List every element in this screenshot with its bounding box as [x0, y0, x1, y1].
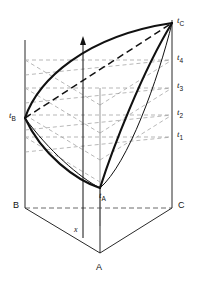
- isotherm-construction-lines: [25, 60, 172, 182]
- diagram-canvas: [0, 0, 197, 282]
- isotherm-back-guide-3r: [100, 115, 172, 160]
- label-vertex-a: A: [96, 263, 102, 272]
- liquidus-curve-tb-ta: [25, 118, 100, 188]
- triangle-edge-a-c: [100, 208, 172, 253]
- secondary-curve-ta-tc: [100, 23, 172, 188]
- label-vertex-c: C: [178, 201, 185, 210]
- label-temperature-c: tC: [177, 16, 184, 27]
- label-isotherm-t4: t4: [177, 53, 183, 64]
- label-axis-x: x: [74, 226, 78, 234]
- liquidus-secondary-curves: [25, 23, 172, 188]
- prism-vertical-edges: [25, 20, 172, 253]
- triangle-edge-b-a: [25, 208, 100, 253]
- liquidus-boundary-curves: [25, 23, 172, 188]
- composition-triangle: [25, 208, 172, 253]
- label-temperature-a: tA: [99, 191, 106, 202]
- isotherm-back-guide-1r: [100, 60, 172, 105]
- label-isotherm-t3: t3: [177, 81, 183, 92]
- label-temperature-b: tB: [9, 111, 16, 122]
- temperature-axis-arrowhead: [80, 36, 86, 45]
- secondary-curve-tb-ta: [25, 118, 100, 188]
- isotherm-projection-t2: [25, 115, 172, 130]
- label-isotherm-t2: t2: [177, 108, 183, 119]
- label-isotherm-t1: t1: [177, 130, 183, 141]
- label-vertex-b: B: [13, 201, 19, 210]
- isotherm-back-guide-4: [25, 137, 100, 182]
- liquidus-curve-ta-tc: [100, 23, 172, 188]
- ternary-phase-diagram: tC t4 t3 t2 t1 tB tA B C A x: [0, 0, 197, 282]
